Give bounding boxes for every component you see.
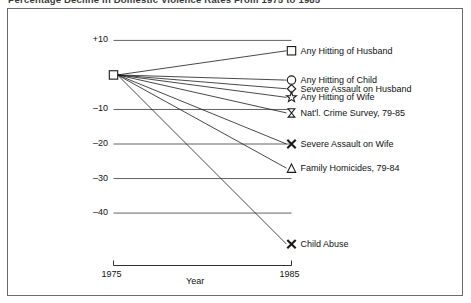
marker-origin-square: [109, 71, 117, 79]
legend-label-6: Family Homicides, 79-84: [301, 163, 400, 173]
axis-lines: [114, 261, 292, 266]
y-tick-label: –10: [68, 103, 108, 113]
marker-square-0: [287, 47, 295, 55]
series-line-1: [118, 75, 287, 80]
y-tick-label: –40: [68, 207, 108, 217]
series-lines: [118, 51, 287, 244]
marker-triangle-6: [287, 164, 295, 172]
series-line-6: [118, 75, 287, 168]
chart-plot-area: [0, 0, 471, 303]
series-line-7: [118, 75, 287, 244]
marker-hourglass-4: [288, 109, 295, 117]
x-tick-label: 1975: [102, 269, 122, 279]
legend-label-7: Child Abuse: [301, 239, 349, 249]
series-line-2: [118, 75, 287, 89]
legend-label-3: Any Hitting of Wife: [301, 92, 375, 102]
marker-star-3: [287, 92, 297, 101]
legend-label-4: Nat'l. Crime Survey, 79-85: [301, 108, 406, 118]
y-tick-label: –20: [68, 138, 108, 148]
y-tick-label: +10: [68, 34, 108, 44]
y-tick-label: –30: [68, 173, 108, 183]
legend-label-5: Severe Assault on Wife: [301, 139, 394, 149]
marker-x-7: [287, 240, 295, 248]
gridlines: [114, 40, 292, 213]
x-axis-label: Year: [186, 276, 204, 286]
legend-label-0: Any Hitting of Husband: [301, 46, 393, 56]
marker-circle-1: [287, 76, 295, 84]
series-line-0: [118, 51, 287, 75]
x-tick-label: 1985: [280, 269, 300, 279]
